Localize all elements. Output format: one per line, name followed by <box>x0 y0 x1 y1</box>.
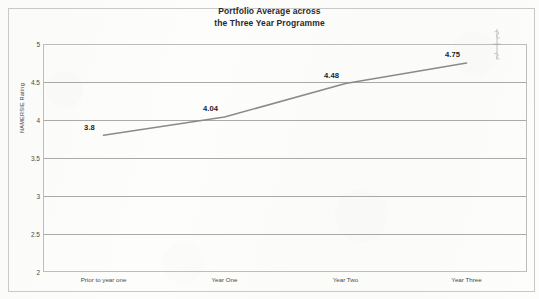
x-tick-label: Year Two <box>333 276 358 283</box>
gridline <box>44 82 526 83</box>
gridline <box>44 196 526 197</box>
chart-title-line-2: the Three Year Programme <box>0 18 539 30</box>
y-tick-label: 3 <box>14 193 40 200</box>
scanned-chart-page: Portfolio Average across the Three Year … <box>0 0 539 299</box>
y-tick-label: 4.5 <box>14 79 40 86</box>
x-tick-label: Year One <box>212 276 238 283</box>
gridline <box>44 120 526 121</box>
gridline <box>44 158 526 159</box>
chart-title-line-1: Portfolio Average across <box>0 6 539 18</box>
y-axis-tick-group: 54.543.532.52 <box>8 0 40 299</box>
y-tick-label: 4 <box>14 117 40 124</box>
data-label: 3.8 <box>84 123 95 132</box>
y-tick-label: 5 <box>14 41 40 48</box>
gridline <box>44 234 526 235</box>
chart-title: Portfolio Average across the Three Year … <box>0 6 539 29</box>
data-label: 4.04 <box>203 104 218 113</box>
y-tick-label: 2 <box>14 269 40 276</box>
x-axis-tick-group: Prior to year oneYear OneYear TwoYear Th… <box>43 276 527 290</box>
plot-area <box>43 44 527 272</box>
y-tick-label: 2.5 <box>14 231 40 238</box>
data-label: 4.75 <box>445 50 460 59</box>
x-tick-label: Prior to year one <box>81 276 127 283</box>
x-tick-label: Year Three <box>451 276 481 283</box>
y-tick-label: 3.5 <box>14 155 40 162</box>
data-label: 4.48 <box>324 71 339 80</box>
